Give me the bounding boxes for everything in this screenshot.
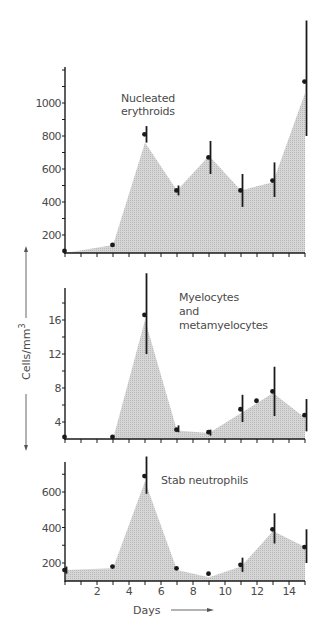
data-point <box>62 568 67 573</box>
data-point <box>62 249 67 254</box>
panel-title-stab-neutrophils: Stab neutrophils <box>161 474 249 487</box>
area-fill <box>65 481 305 581</box>
right-arrowhead-icon <box>207 608 214 612</box>
x-tick-label: 4 <box>126 585 133 598</box>
y-tick-label: 12 <box>48 348 61 361</box>
area-fill <box>65 93 305 253</box>
data-point <box>270 389 275 394</box>
data-point <box>238 407 243 412</box>
y-tick-label: 4 <box>55 416 62 429</box>
x-tick-label: 10 <box>219 585 232 598</box>
data-point <box>110 564 115 569</box>
panel-title-myelocytes-line3: metamyelocytes <box>179 319 268 332</box>
data-point <box>238 562 243 567</box>
y-tick-label: 200 <box>42 229 62 242</box>
y-axis-label-group: Cells/mm3 <box>18 246 33 451</box>
x-tick-label: 14 <box>283 585 296 598</box>
y-tick-label: 400 <box>42 522 62 535</box>
panel-myelocytes: 481216 <box>48 273 307 443</box>
data-point <box>142 474 147 479</box>
data-point <box>206 571 211 576</box>
data-point <box>206 155 211 160</box>
data-point <box>254 398 259 403</box>
data-point <box>206 430 211 435</box>
data-point <box>174 427 179 432</box>
data-point <box>62 435 67 440</box>
data-point <box>110 435 115 440</box>
data-point <box>110 243 115 248</box>
x-tick-label: 6 <box>158 585 165 598</box>
figure: 2004006008001000 481216 200400600 Nuclea… <box>0 0 324 639</box>
x-tick-label: 8 <box>190 585 197 598</box>
data-point <box>270 527 275 532</box>
panel-nucleated-erythroids: 2004006008001000 <box>35 21 307 258</box>
y-tick-label: 800 <box>42 130 62 143</box>
y-tick-label: 200 <box>42 557 62 570</box>
y-tick-label: 16 <box>48 314 61 327</box>
data-point <box>238 188 243 193</box>
y-tick-label: 1000 <box>35 97 61 110</box>
data-point <box>142 313 147 318</box>
x-axis-label: Days <box>133 604 161 617</box>
area-fill <box>65 320 305 439</box>
y-axis-label: Cells/mm3 <box>18 323 33 380</box>
panel-title-myelocytes-line2: and <box>179 305 199 318</box>
data-point <box>302 79 307 84</box>
data-point <box>174 566 179 571</box>
data-point <box>174 188 179 193</box>
data-point <box>270 178 275 183</box>
up-arrowhead-icon <box>24 246 28 252</box>
down-arrowhead-icon <box>24 445 28 451</box>
y-tick-label: 400 <box>42 196 62 209</box>
x-tick-label: 12 <box>251 585 264 598</box>
x-tick-labels: 2468101214 <box>94 585 296 598</box>
y-tick-label: 8 <box>55 382 62 395</box>
data-point <box>302 413 307 418</box>
panel-title-myelocytes-line1: Myelocytes <box>179 291 239 304</box>
y-tick-label: 600 <box>42 163 62 176</box>
panel-title-erythroids-line1: Nucleated <box>121 92 175 105</box>
data-point <box>142 132 147 137</box>
y-tick-label: 600 <box>42 486 62 499</box>
x-tick-label: 2 <box>94 585 100 598</box>
panel-title-erythroids-line2: erythroids <box>121 105 175 118</box>
data-point <box>302 545 307 550</box>
